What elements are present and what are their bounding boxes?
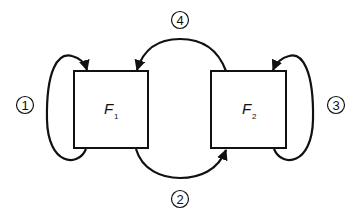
edge-1-badge: 1	[17, 97, 34, 114]
edge-2-f1-to-f2	[136, 149, 226, 178]
flow-diagram: F 1 F 2 1 2 3 4	[0, 0, 357, 221]
node-f1: F 1	[74, 71, 148, 148]
node-f1-label: F	[104, 100, 114, 117]
edge-4-f2-to-f1	[137, 39, 226, 71]
edge-4-badge: 4	[172, 12, 189, 29]
edge-3-number: 3	[332, 98, 339, 113]
node-f1-subscript: 1	[114, 112, 119, 121]
node-f2: F 2	[211, 71, 286, 148]
node-f2-label: F	[242, 100, 252, 117]
edge-2-badge: 2	[172, 191, 189, 208]
edge-4-number: 4	[176, 13, 183, 28]
node-f2-subscript: 2	[252, 112, 257, 121]
edge-1-number: 1	[21, 98, 28, 113]
edge-3-badge: 3	[328, 97, 345, 114]
edge-2-number: 2	[176, 192, 183, 207]
